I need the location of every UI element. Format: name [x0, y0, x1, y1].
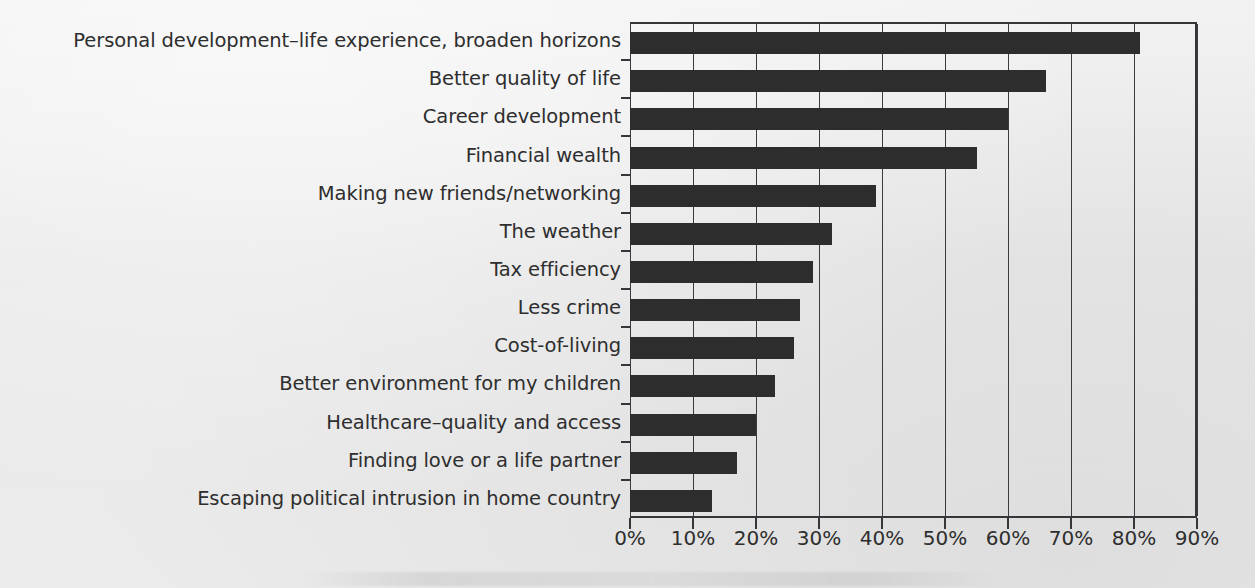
category-label: Personal development–life experience, br… — [73, 31, 621, 51]
category-axis-tick — [621, 364, 631, 366]
category-axis-tick — [621, 326, 631, 328]
value-axis-tick-label: 70% — [1049, 528, 1093, 548]
category-label: Career development — [423, 107, 621, 127]
category-label: Cost-of-living — [494, 336, 621, 356]
category-label: The weather — [500, 222, 621, 242]
plot-area — [630, 22, 1197, 518]
category-axis-tick — [621, 135, 631, 137]
category-axis-tick — [621, 479, 631, 481]
category-label: Better environment for my children — [279, 374, 621, 394]
value-axis-tick-labels: 0%10%20%30%40%50%60%70%80%90% — [0, 528, 1255, 558]
bar — [630, 70, 1046, 92]
bar — [630, 32, 1140, 54]
gridline-70pct — [1071, 24, 1072, 516]
value-axis-tick-label: 80% — [1112, 528, 1156, 548]
category-axis-ticks — [621, 22, 631, 518]
value-axis-tick-label: 50% — [923, 528, 967, 548]
value-axis-tick-label: 90% — [1175, 528, 1219, 548]
value-axis-tick-label: 40% — [860, 528, 904, 548]
bar — [630, 375, 775, 397]
bar — [630, 452, 737, 474]
bar — [630, 147, 977, 169]
gridline-50pct — [945, 24, 946, 516]
bar — [630, 299, 800, 321]
horizontal-bar-chart: Personal development–life experience, br… — [0, 0, 1255, 588]
value-axis-tick-label: 30% — [797, 528, 841, 548]
category-axis-tick — [621, 212, 631, 214]
value-axis-tick-label: 0% — [614, 528, 646, 548]
category-label: Healthcare–quality and access — [326, 413, 621, 433]
category-axis-tick — [621, 250, 631, 252]
bar — [630, 261, 813, 283]
gridline-30pct — [819, 24, 820, 516]
category-label: Making new friends/networking — [318, 184, 621, 204]
category-axis-tick — [621, 59, 631, 61]
gridline-90pct — [1197, 24, 1198, 516]
value-axis-tick-label: 60% — [986, 528, 1030, 548]
category-axis-tick — [621, 403, 631, 405]
bar — [630, 108, 1008, 130]
bar — [630, 223, 832, 245]
bar — [630, 490, 712, 512]
gridline-80pct — [1134, 24, 1135, 516]
category-axis-tick — [621, 288, 631, 290]
bar — [630, 185, 876, 207]
category-label: Better quality of life — [429, 69, 621, 89]
category-label: Less crime — [518, 298, 621, 318]
gridline-60pct — [1008, 24, 1009, 516]
category-label: Tax efficiency — [490, 260, 621, 280]
category-label: Finding love or a life partner — [348, 451, 621, 471]
category-label: Financial wealth — [466, 146, 621, 166]
bar — [630, 414, 756, 436]
gridline-40pct — [882, 24, 883, 516]
category-axis-tick — [621, 174, 631, 176]
category-axis-tick — [621, 441, 631, 443]
value-axis-tick-label: 20% — [734, 528, 778, 548]
value-axis-tick-label: 10% — [671, 528, 715, 548]
bar — [630, 337, 794, 359]
category-axis-tick — [621, 97, 631, 99]
category-label: Escaping political intrusion in home cou… — [197, 489, 621, 509]
